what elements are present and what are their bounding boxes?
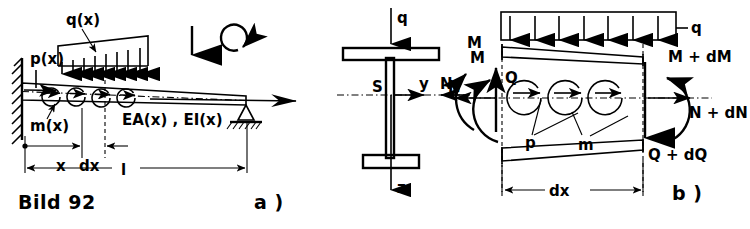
label-y-axis: y [419,75,429,93]
label-dim-dx-right: dx [549,182,570,200]
label-dim-x: x [56,157,66,175]
label-n-left: N [448,78,461,96]
panel-b: q N M Q [448,12,748,204]
label-q: q [397,9,408,27]
label-m-of-x: m(x) [30,117,69,135]
label-centroid-s: S [372,78,383,96]
distributed-load-q: q(x) [58,11,148,74]
leader-m-2 [590,116,628,136]
label-p-of-x: p(x) [30,50,64,68]
panel-cross-section: q S y z N M [337,8,482,197]
label-n-right: N + dN [689,104,748,122]
label-q-right: Q + dQ [648,146,707,164]
web [386,58,394,158]
figure-bild-92: q(x) p(x) m(x) [0,0,750,229]
label-q-left: Q [505,69,518,87]
label-p: p [525,134,536,152]
label-q-uniform: q [691,19,702,37]
right-internal-forces: N + dN M + dM Q + dQ [645,48,748,164]
dimension-dx-right: dx [502,160,643,200]
label-m-right: M + dM [668,48,732,66]
label-stiffness: EA(x) , EI(x) [122,111,223,129]
label-dim-l: l [121,161,126,179]
panel-a: q(x) p(x) m(x) [12,11,296,213]
panel-a-label: a ) [254,191,284,213]
internal-load-symbols: p m [507,81,628,154]
leader-p-2 [534,113,578,135]
leader-m-1 [572,112,582,135]
label-z-axis: z [397,179,406,197]
axial-force-arrow [150,99,296,101]
fixed-support-wall-icon [12,58,22,144]
label-q-of-x: q(x) [66,11,100,29]
distributed-load-q-uniform: q [501,12,702,40]
pin-support-icon [227,105,262,129]
leader-p-1 [532,100,541,135]
moment-arc-m-right [667,78,690,140]
beam-element-body [502,44,643,164]
label-dim-dx: dx [79,157,100,175]
label-m-left: M [470,49,485,67]
label-m: m [578,136,594,154]
sign-convention-moment-icon [221,25,247,51]
moment-arc-m-left [473,80,498,142]
panel-b-label: b ) [672,182,702,204]
figure-caption: Bild 92 [18,191,96,213]
